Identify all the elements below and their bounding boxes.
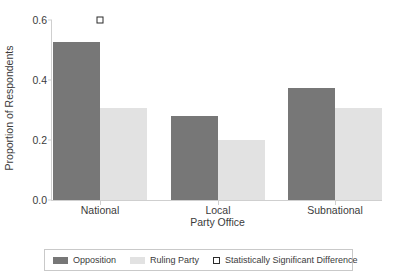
- bar-subnational-ruling-party[interactable]: [335, 108, 382, 200]
- bar-group-local: [171, 20, 265, 200]
- x-tick-label-subnational: Subnational: [307, 204, 362, 216]
- y-axis-label-text: Proportion of Respondents: [3, 45, 15, 170]
- significance-marker-national: [97, 17, 104, 24]
- legend-swatch-opposition-icon: [53, 257, 68, 264]
- bar-group-national: [53, 20, 147, 200]
- legend-item-ruling-party[interactable]: Ruling Party: [130, 255, 199, 265]
- bar-chart-figure: Proportion of Respondents 0.0 0.2 0.4 0.…: [0, 0, 396, 280]
- legend-label-ruling-party: Ruling Party: [150, 255, 199, 265]
- y-tick-mark-1: [48, 140, 52, 141]
- legend-label-significant-difference: Statistically Significant Difference: [225, 255, 357, 265]
- bar-subnational-opposition[interactable]: [288, 88, 335, 200]
- bar-group-subnational: [288, 20, 382, 200]
- y-tick-mark-0: [48, 200, 52, 201]
- legend-swatch-ruling-party-icon: [130, 257, 145, 264]
- bar-national-opposition[interactable]: [53, 42, 100, 200]
- x-tick-label-national: National: [81, 204, 120, 216]
- legend-open-square-icon: [213, 257, 220, 264]
- y-axis-label: Proportion of Respondents: [2, 10, 16, 205]
- x-axis-label: Party Office: [53, 216, 382, 228]
- legend-item-significant-difference[interactable]: Statistically Significant Difference: [213, 255, 357, 265]
- bar-local-opposition[interactable]: [171, 116, 218, 200]
- y-tick-label-3: 0.6: [32, 14, 47, 26]
- bar-national-ruling-party[interactable]: [100, 108, 147, 200]
- plot-area: 0.0 0.2 0.4 0.6 National Local Subnation…: [53, 20, 382, 200]
- y-tick-mark-2: [48, 80, 52, 81]
- y-tick-label-1: 0.2: [32, 134, 47, 146]
- legend-item-opposition[interactable]: Opposition: [53, 255, 116, 265]
- legend: Opposition Ruling Party Statistically Si…: [44, 249, 353, 271]
- bar-local-ruling-party[interactable]: [218, 140, 265, 200]
- y-axis-line: [51, 20, 52, 201]
- legend-label-opposition: Opposition: [73, 255, 116, 265]
- y-tick-mark-3: [48, 20, 52, 21]
- y-tick-label-2: 0.4: [32, 74, 47, 86]
- x-tick-label-local: Local: [205, 204, 230, 216]
- y-tick-label-0: 0.0: [32, 194, 47, 206]
